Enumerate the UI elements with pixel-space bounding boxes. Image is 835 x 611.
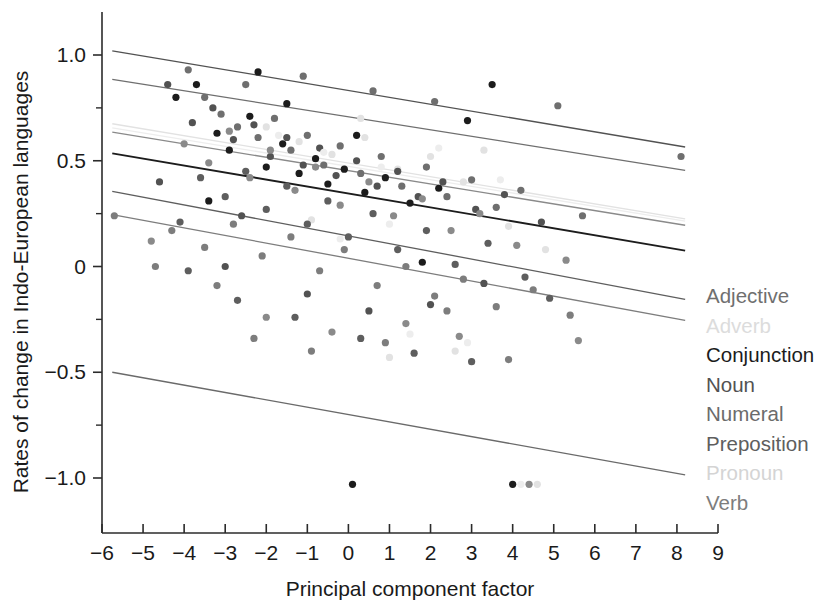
data-point [312, 155, 319, 162]
legend-item-pronoun[interactable]: Pronoun [706, 461, 784, 484]
data-point [374, 282, 381, 289]
data-point [394, 246, 401, 253]
x-tick-label: 8 [671, 541, 683, 564]
data-point [497, 176, 504, 183]
data-point [341, 246, 348, 253]
data-point [300, 73, 307, 80]
data-point [509, 481, 516, 488]
data-point [567, 312, 574, 319]
data-point [320, 149, 327, 156]
regression-line-noun [112, 51, 685, 147]
data-point [357, 170, 364, 177]
legend-item-adjective[interactable]: Adjective [706, 284, 789, 307]
scatter-plot-figure: −6−5−4−3−2−10123456789 1.00.50−0.5−1.0 P… [0, 0, 835, 611]
data-point [456, 333, 463, 340]
data-point [365, 307, 372, 314]
data-point [250, 335, 257, 342]
data-point [279, 140, 286, 147]
data-point [427, 301, 434, 308]
data-point [185, 267, 192, 274]
data-point [378, 163, 385, 170]
data-point [316, 267, 323, 274]
data-point [369, 210, 376, 217]
data-point [234, 297, 241, 304]
data-point [460, 276, 467, 283]
legend-item-conjunction[interactable]: Conjunction [706, 343, 814, 366]
y-axis-title: Rates of change in Indo-European languag… [9, 71, 32, 494]
data-point [386, 221, 393, 228]
data-point [230, 221, 237, 228]
y-tick-label: −1.0 [45, 466, 86, 489]
data-point [304, 221, 311, 228]
regression-line-lowest [112, 372, 685, 475]
data-point [480, 147, 487, 154]
data-point [259, 252, 266, 259]
data-point [193, 81, 200, 88]
data-point [501, 191, 508, 198]
data-point [148, 238, 155, 245]
data-point [419, 195, 426, 202]
data-point [283, 100, 290, 107]
y-tick-label: 1.0 [57, 43, 86, 66]
x-tick-label: 1 [384, 541, 396, 564]
data-point [357, 335, 364, 342]
data-point [238, 212, 245, 219]
data-point [546, 295, 553, 302]
data-point [267, 147, 274, 154]
data-point [209, 104, 216, 111]
legend-item-preposition[interactable]: Preposition [706, 432, 809, 455]
legend-item-adverb[interactable]: Adverb [706, 314, 771, 337]
data-point [386, 354, 393, 361]
x-tick-label: −5 [131, 541, 155, 564]
data-point [242, 81, 249, 88]
data-point [394, 168, 401, 175]
data-point [349, 481, 356, 488]
data-point [402, 263, 409, 270]
data-point [435, 144, 442, 151]
data-point [521, 273, 528, 280]
data-point [579, 212, 586, 219]
legend: AdjectiveAdverbConjunctionNounNumeralPre… [706, 284, 814, 514]
data-point [439, 178, 446, 185]
data-point [447, 227, 454, 234]
data-point [353, 157, 360, 164]
data-point [300, 161, 307, 168]
data-point [189, 119, 196, 126]
data-point [513, 242, 520, 249]
legend-item-numeral[interactable]: Numeral [706, 402, 783, 425]
data-point [538, 218, 545, 225]
y-tick-label: −0.5 [45, 360, 86, 383]
data-point [291, 314, 298, 321]
data-point [476, 210, 483, 217]
data-point [337, 142, 344, 149]
data-point [168, 227, 175, 234]
data-point [530, 286, 537, 293]
data-point [534, 481, 541, 488]
x-tick-label: 9 [712, 541, 724, 564]
data-point [480, 280, 487, 287]
data-point [427, 153, 434, 160]
regression-lines-group [112, 51, 685, 475]
data-point [304, 132, 311, 139]
data-point [201, 94, 208, 101]
data-point [291, 187, 298, 194]
data-point [283, 134, 290, 141]
data-point [250, 121, 257, 128]
data-point [304, 290, 311, 297]
data-point [517, 187, 524, 194]
x-tick-label: −1 [295, 541, 319, 564]
data-point [308, 348, 315, 355]
data-point [275, 132, 282, 139]
y-tick-labels-group: 1.00.50−0.5−1.0 [45, 43, 86, 489]
data-point [452, 348, 459, 355]
data-point [201, 244, 208, 251]
data-point [361, 189, 368, 196]
legend-item-verb[interactable]: Verb [706, 491, 748, 514]
data-point [353, 132, 360, 139]
data-point [357, 115, 364, 122]
legend-item-noun[interactable]: Noun [706, 373, 755, 396]
x-tick-label: −6 [90, 541, 114, 564]
data-point [324, 180, 331, 187]
data-point [382, 339, 389, 346]
data-point [287, 147, 294, 154]
